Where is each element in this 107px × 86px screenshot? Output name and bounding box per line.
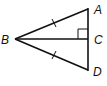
label-c: C xyxy=(94,33,103,47)
segment-ba xyxy=(15,9,88,39)
label-b: B xyxy=(1,33,9,47)
label-a: A xyxy=(93,3,102,17)
right-angle-mark xyxy=(78,29,88,39)
segment-bd xyxy=(15,39,88,70)
triangle-diagram: A B C D xyxy=(0,0,107,86)
label-d: D xyxy=(93,65,102,79)
